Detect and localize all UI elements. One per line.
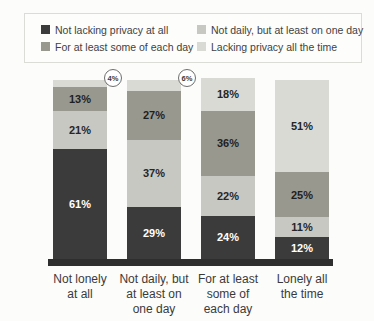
bar-segment: 29%: [127, 207, 181, 259]
bar-segment-label: 27%: [143, 109, 165, 121]
bar-segment: [53, 80, 107, 87]
bar-segment: 13%: [53, 87, 107, 111]
legend-item-label: Not lacking privacy at all: [55, 24, 168, 36]
bar-segment: 22%: [201, 176, 255, 216]
bar-segment: 18%: [201, 78, 255, 111]
legend-item: Not daily, but at least on one day: [197, 24, 363, 36]
stacked-bar: 29%37%27%: [127, 78, 181, 259]
bars: 61%21%13%29%37%27%24%22%36%18%12%11%25%5…: [53, 78, 329, 259]
bar-segment-label: 25%: [291, 189, 313, 201]
bar-segment-label: 22%: [217, 190, 239, 202]
category-label-cell: For at least some of each day: [201, 272, 255, 317]
axis-baseline: [48, 259, 333, 266]
stacked-bar: 12%11%25%51%: [275, 78, 329, 259]
category-label: Lonely all the time: [256, 272, 348, 317]
bar-segment: 51%: [275, 80, 329, 172]
legend-swatch-icon: [41, 25, 50, 34]
annotation-callout: 4%: [104, 69, 122, 87]
bar-segment: 21%: [53, 111, 107, 149]
bar-segment-label: 37%: [143, 167, 165, 179]
bar-segment: [127, 80, 181, 91]
legend-item: For at least some of each day: [41, 41, 197, 53]
bar-segment-label: 12%: [291, 242, 313, 254]
legend-item-label: For at least some of each day: [55, 41, 193, 53]
bar-segment-label: 21%: [69, 124, 91, 136]
bar-segment-label: 11%: [291, 221, 312, 233]
stacked-bar: 61%21%13%: [53, 78, 107, 259]
chart-figure: Not lacking privacy at allNot daily, but…: [0, 0, 374, 321]
bar-segment: 61%: [53, 149, 107, 259]
bar-segment-label: 36%: [217, 137, 239, 149]
bar-segment: 12%: [275, 237, 329, 259]
bar-segment-label: 24%: [217, 231, 239, 243]
stacked-bar: 24%22%36%18%: [201, 78, 255, 259]
legend-swatch-icon: [197, 25, 206, 34]
legend: Not lacking privacy at allNot daily, but…: [24, 13, 362, 63]
bar-segment-label: 13%: [69, 93, 91, 105]
bar-segment: 11%: [275, 217, 329, 237]
bar-segment: 27%: [127, 91, 181, 140]
category-label-cell: Not daily, but at least on one day: [127, 272, 181, 317]
bar-segment-label: 61%: [69, 198, 91, 210]
legend-swatch-icon: [197, 42, 206, 51]
legend-item-label: Lacking privacy all the time: [211, 41, 337, 53]
bar-segment-label: 18%: [217, 88, 239, 100]
category-label-cell: Not lonely at all: [53, 272, 107, 317]
legend-item: Lacking privacy all the time: [197, 41, 363, 53]
bar-segment-label: 29%: [143, 227, 165, 239]
legend-item: Not lacking privacy at all: [41, 24, 197, 36]
legend-item-label: Not daily, but at least on one day: [211, 24, 363, 36]
legend-swatch-icon: [41, 42, 50, 51]
bar-segment: 24%: [201, 216, 255, 259]
annotation-callout: 6%: [178, 69, 196, 87]
bar-segment: 36%: [201, 111, 255, 176]
bar-segment-label: 51%: [291, 120, 313, 132]
bar-segment: 25%: [275, 172, 329, 217]
category-label-cell: Lonely all the time: [275, 272, 329, 317]
category-labels: Not lonely at allNot daily, but at least…: [53, 272, 329, 317]
bar-segment: 37%: [127, 140, 181, 207]
